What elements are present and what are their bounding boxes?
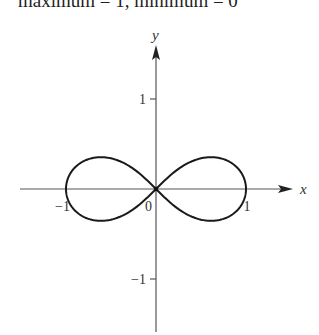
x-tick-label: 0 (145, 199, 152, 214)
plot-area: x y 1−1−101 (0, 0, 319, 335)
x-axis-label: x (299, 181, 307, 197)
y-tick-label: −1 (131, 272, 146, 287)
y-axis-label: y (150, 27, 159, 43)
x-tick-label: 1 (244, 199, 251, 214)
y-tick-label: 1 (139, 92, 146, 107)
origin-point (154, 187, 158, 191)
